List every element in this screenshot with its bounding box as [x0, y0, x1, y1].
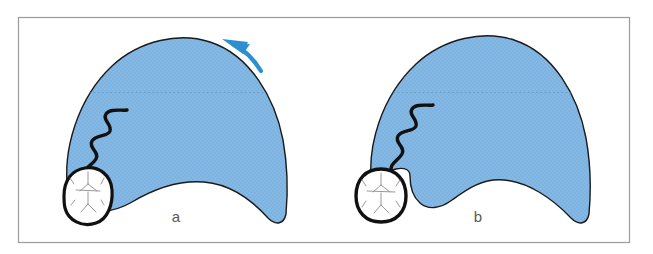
figure-container: a — [0, 0, 653, 254]
figure-canvas: a — [0, 0, 653, 254]
fetal-head-b — [356, 169, 406, 222]
panel-b-label: b — [474, 208, 482, 225]
panel-a-label: a — [172, 208, 181, 225]
fetal-head-a — [64, 168, 112, 225]
